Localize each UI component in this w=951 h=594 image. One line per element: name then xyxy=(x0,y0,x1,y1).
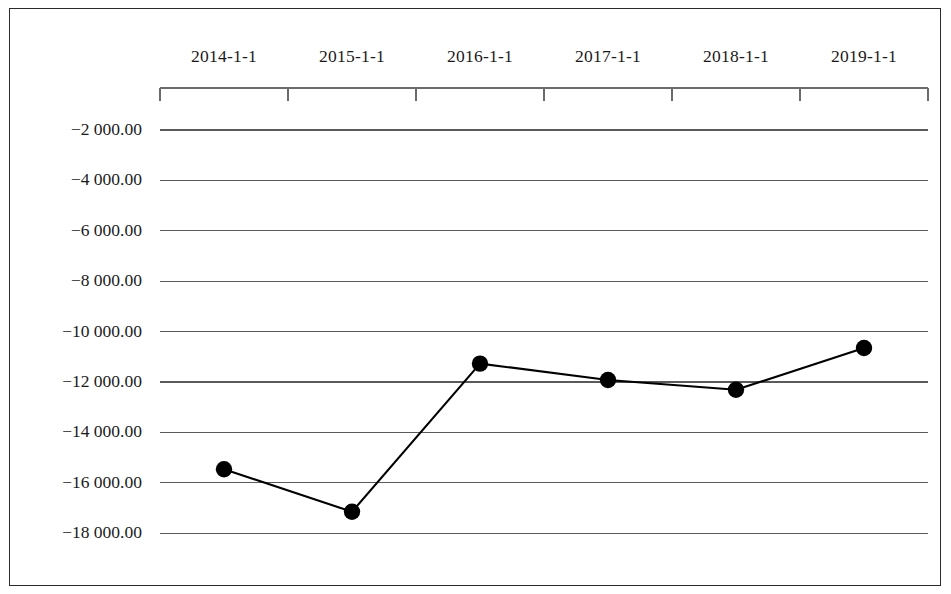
data-point-marker[interactable] xyxy=(472,355,488,371)
series-markers xyxy=(216,340,872,520)
x-axis-tick-label: 2016-1-1 xyxy=(416,46,544,67)
x-axis-tick-label: 2015-1-1 xyxy=(288,46,416,67)
line-chart-plot xyxy=(0,0,951,594)
y-axis-tick-label: −18 000.00 xyxy=(62,522,142,543)
data-point-marker[interactable] xyxy=(344,504,360,520)
y-axis-tick-label: −14 000.00 xyxy=(62,421,142,442)
data-point-marker[interactable] xyxy=(856,340,872,356)
gridlines-group xyxy=(160,130,928,533)
data-point-marker[interactable] xyxy=(216,461,232,477)
chart-screenshot: −2 000.00−4 000.00−6 000.00−8 000.00−10 … xyxy=(0,0,951,594)
y-axis-tick-label: −12 000.00 xyxy=(62,371,142,392)
x-axis-tick-label: 2019-1-1 xyxy=(800,46,928,67)
series-polyline xyxy=(224,348,864,512)
y-axis-tick-label: −10 000.00 xyxy=(62,321,142,342)
y-axis-tick-label: −6 000.00 xyxy=(71,220,142,241)
y-axis-tick-label: −4 000.00 xyxy=(71,169,142,190)
data-point-marker[interactable] xyxy=(728,382,744,398)
data-point-marker[interactable] xyxy=(600,372,616,388)
x-axis-tick-label: 2014-1-1 xyxy=(160,46,288,67)
y-axis-tick-label: −16 000.00 xyxy=(62,472,142,493)
x-axis-tick-label: 2018-1-1 xyxy=(672,46,800,67)
series-line xyxy=(224,348,864,512)
y-axis-tick-label: −2 000.00 xyxy=(71,119,142,140)
x-axis-bracket xyxy=(160,88,928,101)
x-axis-tick-label: 2017-1-1 xyxy=(544,46,672,67)
y-axis-tick-label: −8 000.00 xyxy=(71,270,142,291)
